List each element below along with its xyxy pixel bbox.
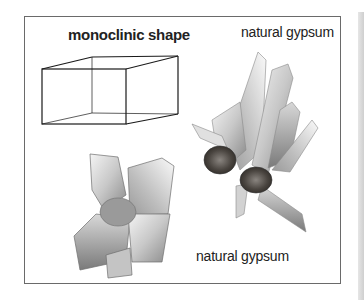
monoclinic-box-diagram [42, 56, 178, 124]
rock-matrix [204, 146, 236, 174]
box-front-face [42, 69, 126, 124]
gypsum-crystal-cluster-bottom [74, 154, 174, 278]
box-edge-back-bottom [92, 113, 178, 114]
gypsum-crystal-cluster-top [192, 52, 318, 232]
rock-matrix [240, 167, 272, 193]
box-edge-back-top [92, 56, 178, 57]
crystal-core [100, 198, 136, 226]
box-edge-top-right-depth [126, 56, 178, 69]
box-edge-top-left-depth [42, 57, 92, 69]
crystal-blade [258, 186, 306, 232]
illustration-canvas [0, 0, 364, 300]
crystal-blade [128, 214, 170, 262]
box-edge-bottom-left-depth [42, 113, 92, 124]
box-edge-bottom-right-depth [126, 114, 178, 124]
